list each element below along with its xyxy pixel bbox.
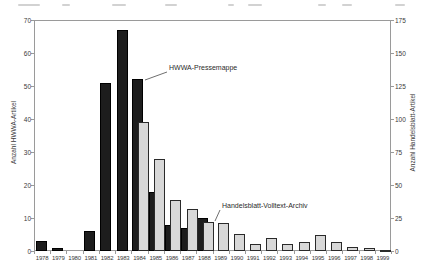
x-axis-year-label: 1982 — [99, 255, 115, 262]
bar-handelsblatt-1995 — [315, 235, 326, 251]
left-axis-tick-label: 50 — [6, 83, 31, 90]
bar-hwwa-1978 — [36, 241, 47, 251]
right-axis-tick — [391, 185, 394, 186]
x-axis-year-label: 1987 — [180, 255, 196, 262]
cropped-text-fragment — [248, 4, 262, 6]
left-axis-tick-label: 60 — [6, 50, 31, 57]
x-axis-tick — [213, 251, 214, 254]
x-axis-year-label: 1996 — [326, 255, 342, 262]
right-axis-tick — [391, 152, 394, 153]
right-axis-tick — [391, 53, 394, 54]
right-axis-tick — [391, 119, 394, 120]
x-axis-year-label: 1983 — [115, 255, 131, 262]
cropped-text-fragment — [165, 4, 177, 6]
x-axis-year-label: 1994 — [294, 255, 310, 262]
right-axis-tick-label: 0 — [395, 248, 420, 255]
x-axis-year-label: 1981 — [83, 255, 99, 262]
x-axis-year-label: 1986 — [164, 255, 180, 262]
right-axis-tick-label: 175 — [395, 17, 420, 24]
right-axis-tick — [391, 218, 394, 219]
x-axis-tick — [277, 251, 278, 254]
left-axis-tick-label: 0 — [6, 248, 31, 255]
x-axis-tick — [164, 251, 165, 254]
bar-handelsblatt-1984 — [138, 122, 149, 251]
right-axis-tick-label: 125 — [395, 83, 420, 90]
x-axis-tick — [391, 251, 392, 254]
left-axis-tick — [31, 152, 34, 153]
left-axis-tick — [31, 185, 34, 186]
cropped-text-fragment — [318, 4, 326, 6]
cropped-text-fragment — [228, 4, 234, 6]
plot-area-frame — [34, 20, 391, 251]
x-axis-tick — [196, 251, 197, 254]
x-axis-tick — [342, 251, 343, 254]
bar-handelsblatt-1992 — [266, 238, 277, 251]
x-axis-tick — [359, 251, 360, 254]
left-axis-tick-label: 70 — [6, 17, 31, 24]
x-axis-tick — [375, 251, 376, 254]
x-axis-year-label: 1995 — [310, 255, 326, 262]
x-axis-tick — [326, 251, 327, 254]
bar-hwwa-1979 — [52, 248, 63, 251]
cropped-text-fragment — [395, 4, 405, 6]
x-axis-tick — [50, 251, 51, 254]
bar-handelsblatt-1988 — [203, 222, 214, 251]
bar-handelsblatt-1999 — [380, 250, 391, 252]
x-axis-tick — [261, 251, 262, 254]
bar-handelsblatt-1991 — [250, 244, 261, 251]
right-axis-tick-label: 25 — [395, 215, 420, 222]
left-axis-tick — [31, 20, 34, 21]
right-axis-tick-label: 100 — [395, 116, 420, 123]
x-axis-tick — [34, 251, 35, 254]
x-axis-year-label: 1990 — [229, 255, 245, 262]
x-axis-year-label: 1993 — [277, 255, 293, 262]
x-axis-year-label: 1979 — [50, 255, 66, 262]
x-axis-tick — [66, 251, 67, 254]
right-axis-tick — [391, 86, 394, 87]
left-axis-tick — [31, 86, 34, 87]
cropped-text-fragment — [18, 4, 40, 6]
bar-handelsblatt-1989 — [218, 223, 229, 251]
x-axis-tick — [310, 251, 311, 254]
x-axis-tick — [229, 251, 230, 254]
left-axis-tick-label: 10 — [6, 215, 31, 222]
bar-handelsblatt-1985 — [154, 159, 165, 251]
x-axis-year-label: 1988 — [196, 255, 212, 262]
bar-handelsblatt-1998 — [364, 248, 375, 251]
x-axis-year-label: 1984 — [131, 255, 147, 262]
left-axis-tick — [31, 119, 34, 120]
x-axis-year-label: 1989 — [213, 255, 229, 262]
left-axis-tick — [31, 53, 34, 54]
cropped-text-fragment — [112, 4, 126, 6]
x-axis-tick — [115, 251, 116, 254]
cropped-text-fragment — [342, 4, 352, 6]
left-axis-tick-label: 40 — [6, 116, 31, 123]
right-axis-tick-label: 75 — [395, 149, 420, 156]
x-axis-year-label: 1978 — [34, 255, 50, 262]
x-axis-year-label: 1992 — [261, 255, 277, 262]
bar-hwwa-1982 — [100, 83, 111, 251]
x-axis-year-label: 1999 — [375, 255, 391, 262]
bar-handelsblatt-1997 — [347, 247, 358, 251]
x-axis-tick — [294, 251, 295, 254]
bar-handelsblatt-1993 — [282, 244, 293, 251]
right-axis-tick-label: 50 — [395, 182, 420, 189]
cropped-text-fragment — [62, 4, 70, 6]
bar-handelsblatt-1994 — [299, 242, 310, 251]
x-axis-tick — [180, 251, 181, 254]
x-axis-year-label: 1997 — [342, 255, 358, 262]
bar-handelsblatt-1990 — [234, 234, 245, 251]
right-axis-tick-label: 150 — [395, 50, 420, 57]
bar-handelsblatt-1987 — [187, 209, 198, 251]
x-axis-year-label: 1991 — [245, 255, 261, 262]
bar-handelsblatt-1996 — [331, 242, 342, 251]
left-axis-tick-label: 30 — [6, 149, 31, 156]
x-axis-year-label: 1980 — [66, 255, 82, 262]
annotation-handelsblatt-volltext-archiv: Handelsblatt-Volltext-Archiv — [222, 202, 308, 210]
bar-handelsblatt-1986 — [170, 200, 181, 251]
x-axis-year-label: 1985 — [148, 255, 164, 262]
left-axis-tick — [31, 218, 34, 219]
left-axis-tick-label: 20 — [6, 182, 31, 189]
x-axis-tick — [245, 251, 246, 254]
dual-axis-bar-chart: Anzahl HWWA-Artikel Anzahl Handelsblatt-… — [0, 0, 430, 278]
